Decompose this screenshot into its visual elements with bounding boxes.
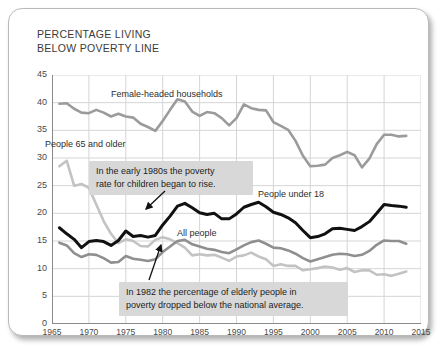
series-label-people-under-18: People under 18 [258,189,324,199]
series-label-all-people: All people [177,228,217,238]
series-label-female-headed-households: Female-headed households [111,89,223,99]
y-axis-tick-label: 10 [25,263,47,273]
x-axis-tick-label: 2015 [405,327,437,337]
x-axis-tick-label: 2000 [294,327,326,337]
x-axis-tick-label: 1965 [36,327,68,337]
y-axis-tick-label: 20 [25,207,47,217]
x-axis-tick-label: 2010 [368,327,400,337]
x-axis-tick-label: 1995 [257,327,289,337]
y-axis-tick-label: 35 [25,124,47,134]
x-axis-tick-label: 1985 [184,327,216,337]
y-axis-tick-label: 25 [25,180,47,190]
y-axis-tick-label: 45 [25,69,47,79]
x-axis-tick-label: 1990 [221,327,253,337]
annotation-callout-children-rise: In the early 1980s the poverty rate for … [89,161,253,195]
y-axis-tick-label: 5 [25,290,47,300]
page-title: PERCENTAGE LIVING BELOW POVERTY LINE [37,28,159,55]
x-axis-tick-label: 1980 [147,327,179,337]
x-axis-tick-label: 1970 [73,327,105,337]
y-axis-tick-label: 15 [25,235,47,245]
annotation-callout-elderly-below-average: In 1982 the percentage of elderly people… [119,282,348,316]
screenshot-root: PERCENTAGE LIVING BELOW POVERTY LINE 051… [0,0,439,346]
y-axis-tick-label: 30 [25,152,47,162]
y-axis-tick-label: 40 [25,97,47,107]
x-axis-tick-label: 1975 [110,327,142,337]
series-label-people-65-and-older: People 65 and older [45,139,126,149]
chart-card: PERCENTAGE LIVING BELOW POVERTY LINE 051… [8,8,429,336]
x-axis-tick-label: 2005 [331,327,363,337]
